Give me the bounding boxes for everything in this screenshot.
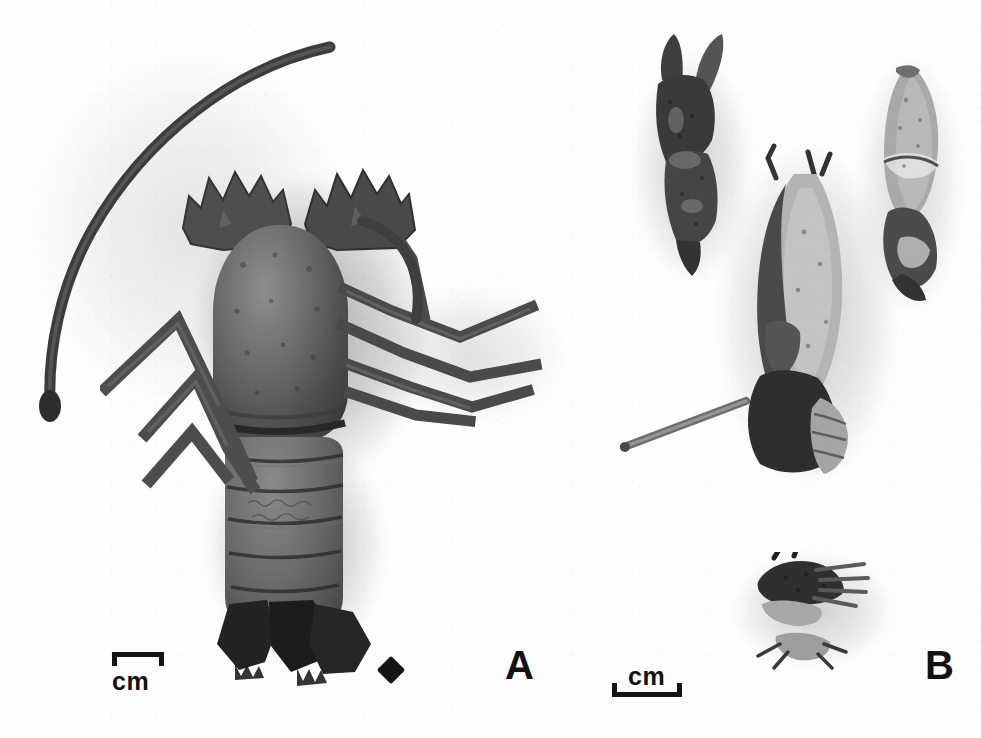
diamond-marker bbox=[377, 656, 405, 684]
right-elongate-fragment bbox=[862, 62, 972, 312]
pereiopods-left bbox=[100, 280, 315, 495]
panel-label-a: A bbox=[505, 645, 534, 685]
scale-bar-panel-b: cm bbox=[612, 664, 702, 710]
scale-bar-tick-right bbox=[159, 652, 164, 666]
specimen-figure-plate: cm A bbox=[0, 0, 981, 738]
scale-bar-label: cm bbox=[628, 664, 665, 689]
lower-appendage-cluster bbox=[740, 552, 890, 672]
pereiopods-right bbox=[320, 215, 560, 445]
panel-label-b: B bbox=[925, 645, 954, 685]
tail-fan bbox=[205, 600, 380, 690]
panel-a: cm A bbox=[0, 0, 560, 738]
panel-b: cm B bbox=[560, 0, 981, 738]
scale-bar-tick-left bbox=[612, 683, 617, 697]
scale-bar-line bbox=[612, 692, 682, 697]
scale-bar-line bbox=[112, 652, 164, 657]
scale-bar-panel-a: cm bbox=[112, 652, 172, 698]
scale-bar-label: cm bbox=[112, 669, 149, 694]
scale-bar-tick-right bbox=[677, 683, 682, 697]
detached-appendage bbox=[618, 395, 758, 455]
scale-bar-tick-left bbox=[112, 652, 117, 666]
